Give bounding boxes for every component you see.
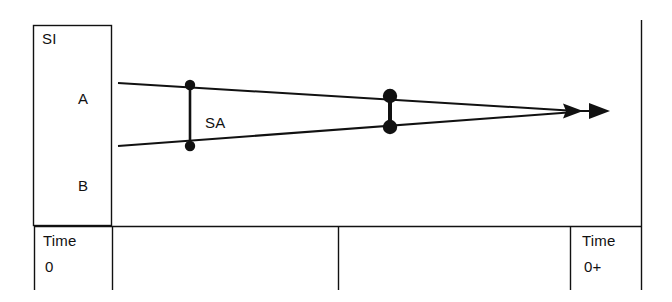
- si-box-outline: [34, 26, 112, 226]
- span-label-sa: SA: [205, 114, 225, 131]
- si-box-title: SI: [42, 30, 57, 47]
- lower-ray: [118, 113, 568, 147]
- axis-right-tick-word: Time: [582, 232, 616, 249]
- marker-dot-1-bottom: [185, 141, 195, 151]
- marker-dot-2-top: [383, 89, 397, 103]
- marker-dot-1-top: [185, 80, 195, 90]
- axis-right-tick-value: 0+: [584, 258, 602, 275]
- axis-left-tick-word: Time: [43, 232, 77, 249]
- figure-canvas: SI A B SA Time 0 Time 0+: [0, 0, 672, 302]
- axis-left-tick-value: 0: [45, 258, 54, 275]
- si-row-label-a: A: [78, 90, 88, 107]
- si-row-label-b: B: [78, 177, 88, 194]
- arrowhead-outer-icon: [589, 103, 610, 119]
- marker-dot-2-bottom: [383, 120, 397, 134]
- diagram-svg: [0, 0, 672, 302]
